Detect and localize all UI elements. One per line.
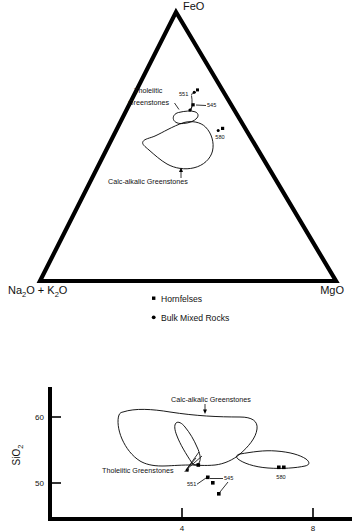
scatter-calc-alkalic-arrowhead bbox=[203, 410, 207, 415]
tholeiitic-field-label-line1: Tholeiitic bbox=[134, 86, 163, 95]
scatter-marker-545b bbox=[211, 481, 215, 485]
calc-alkalic-field-outline bbox=[143, 122, 213, 169]
legend-label-hornfelses: Hornfelses bbox=[161, 294, 202, 304]
ternary-right-label: MgO bbox=[320, 284, 344, 296]
ternary-marker-hornfels-545 bbox=[192, 103, 195, 106]
scatter-sample-580-label: 580 bbox=[276, 474, 285, 480]
scatter-marker-545a bbox=[206, 476, 210, 480]
svg-text:Na2O + K2O: Na2O + K2O bbox=[8, 284, 68, 299]
tholeiitic-field-label-line2: Greenstones bbox=[128, 98, 170, 107]
ternary-marker-hornfels-580 bbox=[221, 127, 224, 130]
scatter-sample-545-leader2 bbox=[220, 482, 228, 492]
figure-container: FeO Na2O + K2O MgO Tholeiitic Greenstone… bbox=[0, 0, 352, 531]
scatter-marker-580a bbox=[277, 466, 281, 470]
scatter-ytick-label-50: 50 bbox=[35, 479, 44, 488]
ternary-left-label: Na2O + K2O bbox=[8, 284, 68, 299]
ternary-sample-545-label: 545 bbox=[207, 102, 216, 108]
svg-text:SiO2: SiO2 bbox=[11, 445, 25, 466]
ternary-apex-label: FeO bbox=[183, 0, 205, 12]
scatter-xtick-label-4: 4 bbox=[180, 524, 185, 531]
figure-svg: FeO Na2O + K2O MgO Tholeiitic Greenstone… bbox=[0, 0, 352, 531]
ternary-marker-bulk-551 bbox=[193, 91, 196, 94]
scatter-plot: 60 50 4 8 SiO2 Calc-alkalic Greenstones … bbox=[11, 387, 352, 531]
scatter-tholeiitic-label: Tholeiitic Greenstones bbox=[102, 466, 174, 475]
scatter-ylabel-sub: 2 bbox=[16, 445, 25, 449]
scatter-xtick-label-8: 8 bbox=[311, 524, 316, 531]
scatter-tholeiitic-leader2 bbox=[186, 452, 199, 470]
ternary-marker-bulk-580 bbox=[217, 129, 220, 132]
scatter-calc-alkalic-field-outline bbox=[118, 409, 257, 466]
scatter-marker-580b bbox=[282, 466, 286, 470]
ternary-sample-545-leader bbox=[196, 105, 206, 106]
ternary-sample-551-label: 551 bbox=[179, 91, 188, 97]
ternary-sample-580-label: 580 bbox=[215, 134, 224, 140]
scatter-marker-551-upper bbox=[197, 463, 201, 467]
tholeiitic-label-leader bbox=[175, 103, 180, 110]
scatter-ytick-label-60: 60 bbox=[35, 413, 44, 422]
scatter-y-axis-title: SiO2 bbox=[11, 445, 25, 466]
left-label-na: Na bbox=[8, 284, 23, 296]
ternary-triangle-outline bbox=[40, 12, 336, 281]
scatter-sample-551-label: 551 bbox=[187, 481, 196, 487]
calc-alkalic-field-label: Calc-alkalic Greenstones bbox=[108, 177, 188, 186]
legend-marker-square-hornfelses bbox=[152, 297, 155, 300]
scatter-sample-551-leader bbox=[197, 478, 206, 484]
left-label-end: O bbox=[59, 284, 68, 296]
left-label-mid: O + K bbox=[26, 284, 55, 296]
scatter-calc-alkalic-label: Calc-alkalic Greenstones bbox=[171, 395, 251, 404]
scatter-ylabel-main: SiO bbox=[11, 449, 22, 466]
scatter-marker-545c bbox=[217, 492, 221, 496]
scatter-calc-alkalic-field-lobe bbox=[237, 451, 309, 469]
legend-marker-circle-bulk-mixed-rocks bbox=[152, 315, 156, 319]
ternary-marker-bulk-545 bbox=[188, 108, 191, 111]
scatter-tholeiitic-field-outline bbox=[175, 422, 200, 465]
scatter-tholeiitic-arrowhead bbox=[184, 468, 189, 472]
scatter-axes bbox=[50, 387, 352, 519]
scatter-sample-545-label: 545 bbox=[224, 475, 233, 481]
legend-label-bulk-mixed-rocks: Bulk Mixed Rocks bbox=[161, 313, 229, 323]
ternary-marker-hornfels-551 bbox=[196, 88, 199, 91]
ternary-diagram: FeO Na2O + K2O MgO Tholeiitic Greenstone… bbox=[8, 0, 344, 299]
legend: Hornfelses Bulk Mixed Rocks bbox=[152, 294, 229, 323]
